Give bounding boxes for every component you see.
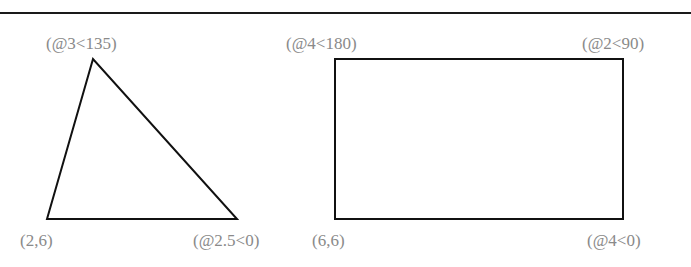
triangle-label-start: (2,6): [20, 232, 53, 249]
rectangle-label-third: (@2<90): [582, 35, 644, 52]
rectangle-label-second: (@4<0): [587, 232, 641, 249]
triangle-label-second: (@2.5<0): [193, 232, 259, 249]
rectangle-label-start: (6,6): [312, 232, 345, 249]
triangle-label-apex: (@3<135): [46, 35, 117, 52]
rectangle: [335, 59, 623, 219]
triangle: [47, 59, 237, 219]
rectangle-label-fourth: (@4<180): [286, 35, 357, 52]
